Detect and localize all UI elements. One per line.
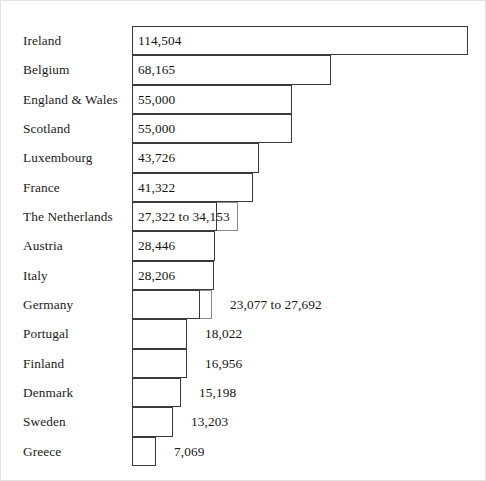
category-label: Greece bbox=[23, 437, 61, 466]
category-label: Italy bbox=[23, 261, 48, 290]
bar[interactable] bbox=[132, 319, 187, 348]
bar-row: Ireland114,504 bbox=[1, 26, 486, 55]
category-label: The Netherlands bbox=[23, 202, 113, 231]
value-label: 18,022 bbox=[205, 319, 242, 348]
bar[interactable] bbox=[132, 437, 156, 466]
bar-row: Italy28,206 bbox=[1, 261, 486, 290]
value-label: 7,069 bbox=[174, 437, 204, 466]
category-label: Denmark bbox=[23, 378, 73, 407]
category-label: England & Wales bbox=[23, 85, 118, 114]
bar-row: Scotland55,000 bbox=[1, 114, 486, 143]
value-label: 28,206 bbox=[138, 261, 175, 290]
bar[interactable] bbox=[132, 378, 181, 407]
category-label: Portugal bbox=[23, 319, 69, 348]
value-label: 23,077 to 27,692 bbox=[230, 290, 322, 319]
range-bar-inner[interactable] bbox=[132, 290, 200, 319]
bar-row: Denmark15,198 bbox=[1, 378, 486, 407]
value-label: 114,504 bbox=[138, 26, 181, 55]
bar[interactable] bbox=[132, 407, 173, 436]
bar-row: France41,322 bbox=[1, 173, 486, 202]
value-label: 43,726 bbox=[138, 143, 175, 172]
value-label: 41,322 bbox=[138, 173, 175, 202]
category-label: Germany bbox=[23, 290, 73, 319]
category-label: Belgium bbox=[23, 55, 70, 84]
category-label: Austria bbox=[23, 231, 63, 260]
value-label: 55,000 bbox=[138, 114, 175, 143]
bar-row: Portugal18,022 bbox=[1, 319, 486, 348]
bar-row: Greece7,069 bbox=[1, 437, 486, 466]
bar-row: Belgium68,165 bbox=[1, 55, 486, 84]
value-label: 15,198 bbox=[199, 378, 236, 407]
category-label: France bbox=[23, 173, 60, 202]
value-label: 68,165 bbox=[138, 55, 175, 84]
bar[interactable] bbox=[132, 26, 468, 55]
bar-row: The Netherlands27,322 to 34,153 bbox=[1, 202, 486, 231]
category-label: Luxembourg bbox=[23, 143, 92, 172]
bar-row: England & Wales55,000 bbox=[1, 85, 486, 114]
value-label: 55,000 bbox=[138, 85, 175, 114]
bar-row: Luxembourg43,726 bbox=[1, 143, 486, 172]
category-label: Sweden bbox=[23, 407, 66, 436]
value-label: 27,322 to 34,153 bbox=[138, 202, 230, 231]
value-label: 13,203 bbox=[191, 407, 228, 436]
category-label: Scotland bbox=[23, 114, 70, 143]
category-label: Finland bbox=[23, 349, 64, 378]
value-label: 28,446 bbox=[138, 231, 175, 260]
chart-page: Ireland114,504Belgium68,165England & Wal… bbox=[0, 0, 486, 481]
bar-row: Sweden13,203 bbox=[1, 407, 486, 436]
horizontal-bar-chart: Ireland114,504Belgium68,165England & Wal… bbox=[1, 1, 486, 481]
value-label: 16,956 bbox=[205, 349, 242, 378]
bar-row: Finland16,956 bbox=[1, 349, 486, 378]
category-label: Ireland bbox=[23, 26, 61, 55]
bar[interactable] bbox=[132, 349, 187, 378]
bar-row: Germany23,077 to 27,692 bbox=[1, 290, 486, 319]
bar-row: Austria28,446 bbox=[1, 231, 486, 260]
